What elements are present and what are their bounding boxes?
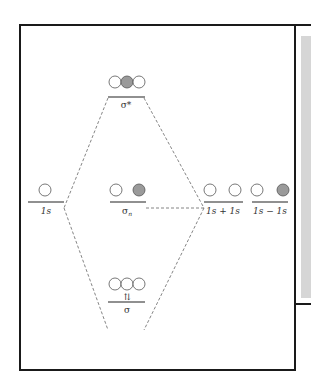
orbital-empty-icon <box>229 184 241 196</box>
orbital-empty-icon <box>251 184 263 196</box>
mo-diagram: σ* 1s σn 1s + 1s 1s − 1s ⇅ σ <box>0 0 311 384</box>
orbital-empty-icon <box>110 184 122 196</box>
level-sigma-star: σ* <box>108 76 145 110</box>
orbital-empty-icon <box>133 278 145 290</box>
label-1s: 1s <box>41 206 52 216</box>
orbital-empty-icon <box>39 184 51 196</box>
label-sigma-star: σ* <box>121 100 132 110</box>
label-1s-plus-1s: 1s + 1s <box>206 206 240 216</box>
orbital-filled-icon <box>277 184 289 196</box>
label-sigma-n: σn <box>122 206 132 217</box>
level-left-1s: 1s <box>28 184 64 216</box>
orbital-empty-icon <box>109 278 121 290</box>
orbital-filled-icon <box>133 184 145 196</box>
label-1s-minus-1s: 1s − 1s <box>253 206 287 216</box>
orbital-empty-icon <box>109 76 121 88</box>
orbital-empty-icon <box>121 278 133 290</box>
orbital-empty-icon <box>133 76 145 88</box>
correlation-lines <box>64 98 204 330</box>
level-combo-plus: 1s + 1s <box>204 184 243 216</box>
electron-pair-icon: ⇅ <box>123 292 131 302</box>
orbital-filled-icon <box>121 76 133 88</box>
level-combo-minus: 1s − 1s <box>251 184 289 216</box>
level-sigma-n: σn <box>110 184 146 217</box>
orbital-empty-icon <box>204 184 216 196</box>
label-sigma: σ <box>124 305 130 315</box>
level-sigma: ⇅ σ <box>108 278 145 315</box>
